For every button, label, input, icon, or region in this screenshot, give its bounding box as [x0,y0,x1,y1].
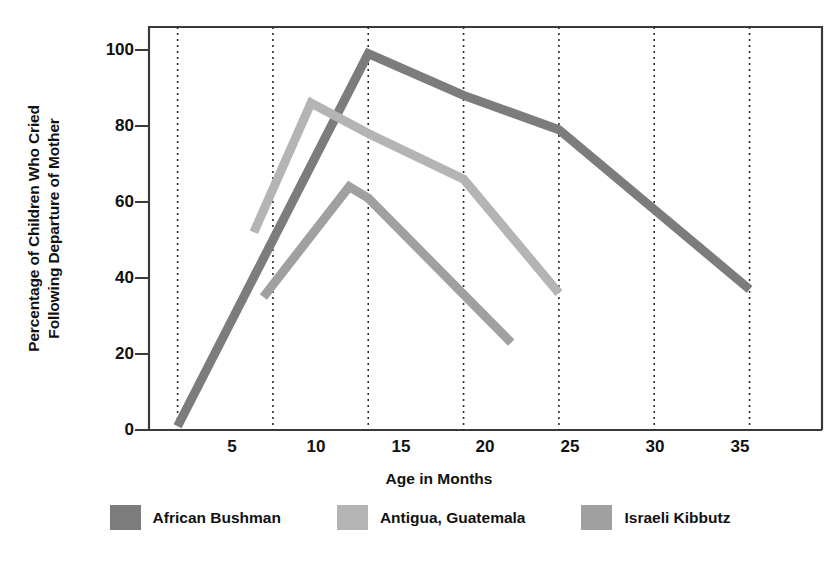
legend-item-israeli-kibbutz[interactable]: Israeli Kibbutz [581,505,730,530]
x-tick-20: 20 [476,437,495,457]
x-tick-35: 35 [731,437,750,457]
legend-swatch-icon [581,505,612,530]
x-axis-title: Age in Months [0,470,840,488]
legend-label: African Bushman [153,509,281,527]
legend-item-antigua-guatemala[interactable]: Antigua, Guatemala [337,505,526,530]
legend-label: Antigua, Guatemala [380,509,526,527]
x-tick-30: 30 [646,437,665,457]
x-tick-15: 15 [392,437,411,457]
legend-label: Israeli Kibbutz [624,509,730,527]
line-series [263,187,511,343]
x-tick-5: 5 [227,437,236,457]
line-series [254,103,559,293]
legend-swatch-icon [337,505,368,530]
chart-legend: African Bushman Antigua, Guatemala Israe… [0,505,840,530]
x-axis-title-text: Age in Months [386,470,493,487]
y-axis-ticks [135,50,149,430]
x-tick-25: 25 [561,437,580,457]
x-gridlines [178,27,750,430]
legend-item-african-bushman[interactable]: African Bushman [110,505,281,530]
x-tick-10: 10 [307,437,326,457]
plot-frame [149,27,822,430]
chart-figure: Percentage of Children Who Cried Followi… [0,0,840,562]
legend-swatch-icon [110,505,141,530]
